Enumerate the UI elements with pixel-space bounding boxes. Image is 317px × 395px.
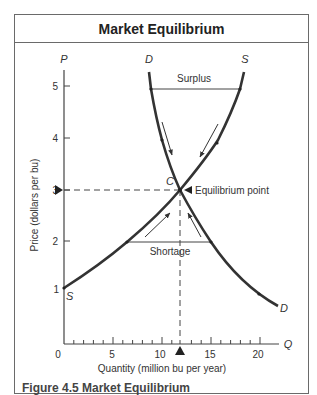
arrow-down-demand: [162, 122, 172, 155]
svg-text:4: 4: [52, 133, 58, 144]
surplus-label: Surplus: [177, 73, 211, 84]
x-axis-title: Quantity (million bu per year): [98, 363, 226, 374]
shortage-label: Shortage: [150, 246, 191, 257]
equilibrium-annotation: Equilibrium point: [195, 185, 269, 196]
x-ticks: [74, 337, 260, 344]
quantity-marker-icon: [175, 346, 185, 355]
price-marker-icon: [55, 185, 63, 195]
svg-text:1: 1: [53, 284, 59, 295]
svg-text:20: 20: [252, 349, 264, 360]
svg-text:0: 0: [55, 349, 61, 360]
supply-label-top: S: [241, 53, 249, 65]
demand-label-bottom: D: [280, 302, 288, 314]
y-axis-symbol: P: [60, 53, 68, 65]
svg-text:5: 5: [109, 349, 115, 360]
supply-label-bottom: S: [66, 290, 74, 302]
equilibrium-pointer-icon: [184, 186, 192, 194]
price-adjustment-arrows: [145, 122, 218, 237]
svg-text:5: 5: [52, 81, 58, 92]
figure-caption: Figure 4.5 Market Equilibrium: [22, 381, 190, 395]
svg-text:10: 10: [154, 349, 166, 360]
equilibrium-point: [178, 188, 182, 192]
svg-text:15: 15: [204, 349, 216, 360]
svg-text:2: 2: [52, 236, 58, 247]
x-axis-symbol: Q: [284, 338, 293, 350]
arrow-up-supply: [145, 213, 170, 237]
y-ticks: [64, 86, 70, 241]
demand-label-top: D: [145, 53, 153, 65]
equilibrium-label-c: C: [166, 175, 174, 187]
x-tick-labels: 0 5 10 15 20: [55, 349, 264, 360]
y-axis-title: Price (dollars per bu): [29, 159, 40, 252]
